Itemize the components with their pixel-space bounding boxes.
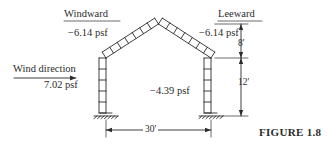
span-dimension-label: 30' bbox=[143, 125, 158, 135]
wind-direction-label: Wind direction bbox=[13, 64, 76, 75]
leeward-wall-pressure-label: −4.39 psf bbox=[150, 86, 190, 97]
leeward-wall-load-rungs bbox=[204, 58, 211, 113]
leeward-roof-pressure-label: −6.14 psf bbox=[199, 28, 239, 39]
roof-rise-dimension-label: 8' bbox=[238, 39, 244, 49]
windward-roof-pressure-label: −6.14 psf bbox=[68, 28, 108, 39]
leeward-label: Leeward bbox=[218, 9, 255, 20]
right-fixed-support bbox=[199, 113, 223, 119]
eave-height-dimension-label: 12' bbox=[238, 78, 249, 88]
figure-caption: FIGURE 1.8 bbox=[259, 127, 321, 138]
windward-roof-load-rungs bbox=[102, 18, 158, 58]
left-fixed-support bbox=[94, 113, 118, 119]
windward-label: Windward bbox=[64, 9, 108, 20]
dimension-span bbox=[106, 120, 211, 137]
windward-wall-load-rungs bbox=[99, 58, 106, 113]
windward-wall-pressure-label: 7.02 psf bbox=[44, 80, 78, 91]
